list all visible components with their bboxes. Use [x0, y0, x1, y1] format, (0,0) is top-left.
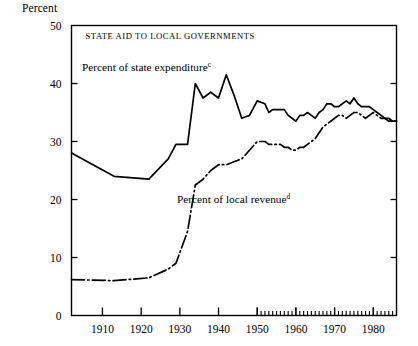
y-tick-label: 0 [56, 310, 62, 322]
series-line-state-expenditure [72, 75, 397, 179]
line-chart-plot: 01020304050 1910192019301940195019601970… [0, 0, 418, 346]
state-expenditure-label-text: Percent of state expenditure [82, 61, 208, 73]
x-tick-label: 1940 [207, 323, 230, 335]
x-tick-label: 1950 [246, 323, 269, 335]
data-series-group [72, 75, 397, 281]
x-tick-label: 1980 [362, 323, 385, 335]
x-axis-ticks [102, 308, 396, 316]
x-tick-label: 1920 [130, 323, 153, 335]
y-tick-label: 20 [50, 194, 62, 206]
y-tick-label: 40 [50, 78, 62, 90]
y-tick-label: 30 [50, 136, 62, 148]
chart-title-text: STATE AID TO LOCAL GOVERNMENTS [86, 31, 255, 41]
local-revenue-label-text: Percent of local revenue [177, 193, 286, 205]
y-axis-unit-label: Percent [22, 2, 57, 14]
x-tick-label: 1970 [323, 323, 346, 335]
local-revenue-label-superscript: d [286, 192, 290, 201]
chart-title: STATE AID TO LOCAL GOVERNMENTS [86, 31, 255, 41]
series-annotations: Percent of state expenditurecPercent of … [82, 60, 290, 205]
y-tick-label: 10 [50, 252, 62, 264]
x-tick-label: 1910 [91, 323, 114, 335]
x-axis-tick-labels: 19101920193019401950196019701980 [91, 323, 385, 335]
x-tick-label: 1960 [284, 323, 307, 335]
y-tick-label: 50 [50, 20, 62, 32]
local-revenue-label: Percent of local revenued [177, 192, 290, 205]
state-expenditure-label-superscript: c [208, 60, 212, 69]
y-axis-ticks [72, 84, 397, 258]
chart-figure: Percent 01020304050 19101920193019401950… [0, 0, 418, 346]
x-tick-label: 1930 [168, 323, 191, 335]
y-axis-tick-labels: 01020304050 [50, 20, 62, 322]
state-expenditure-label: Percent of state expenditurec [82, 60, 212, 73]
